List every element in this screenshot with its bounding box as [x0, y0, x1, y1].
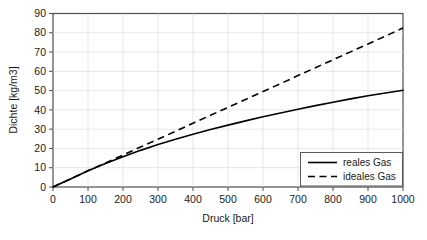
density-pressure-chart: 0102030405060708090 01002003004005006007… — [0, 0, 427, 240]
y-tick-label: 80 — [34, 26, 46, 38]
x-tick-label: 100 — [79, 193, 97, 205]
legend: reales Gas ideales Gas — [301, 153, 403, 187]
y-tick-label: 20 — [34, 142, 46, 154]
x-tick-label: 1000 — [391, 193, 415, 205]
y-tick-label: 90 — [34, 7, 46, 19]
legend-label-reales-gas: reales Gas — [343, 157, 391, 168]
x-tick-label: 500 — [219, 193, 237, 205]
chart-container: 0102030405060708090 01002003004005006007… — [0, 0, 427, 240]
y-axis-tick-labels: 0102030405060708090 — [34, 7, 46, 193]
x-axis-title: Druck [bar] — [202, 212, 253, 224]
x-tick-label: 600 — [254, 193, 272, 205]
y-tick-label: 30 — [34, 123, 46, 135]
x-tick-label: 700 — [289, 193, 307, 205]
y-tick-label: 50 — [34, 84, 46, 96]
y-tick-label: 10 — [34, 161, 46, 173]
x-tick-label: 200 — [114, 193, 132, 205]
y-tick-label: 40 — [34, 104, 46, 116]
x-tick-label: 800 — [324, 193, 342, 205]
y-tick-label: 70 — [34, 46, 46, 58]
x-tick-label: 400 — [184, 193, 202, 205]
x-tick-label: 0 — [50, 193, 56, 205]
y-axis-title: Dichte [kg/m3] — [7, 66, 19, 133]
y-tick-label: 0 — [40, 181, 46, 193]
x-tick-label: 300 — [149, 193, 167, 205]
y-tick-label: 60 — [34, 65, 46, 77]
x-axis-tick-labels: 01002003004005006007008009001000 — [50, 193, 415, 205]
x-tick-label: 900 — [359, 193, 377, 205]
legend-label-ideales-gas: ideales Gas — [343, 171, 396, 182]
